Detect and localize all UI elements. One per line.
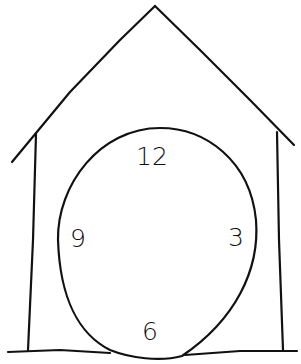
roof-left bbox=[12, 6, 155, 162]
roof-right bbox=[155, 6, 294, 145]
right-wall bbox=[277, 132, 283, 350]
numeral-12: 12 bbox=[136, 144, 168, 169]
numeral-6: 6 bbox=[142, 319, 158, 344]
left-wall bbox=[28, 134, 36, 350]
numeral-3: 3 bbox=[228, 225, 244, 250]
ground-line bbox=[8, 350, 297, 355]
clock-house-drawing: 12 3 9 6 bbox=[0, 0, 301, 364]
numeral-9: 9 bbox=[70, 226, 86, 251]
sketch-lines bbox=[0, 0, 301, 364]
